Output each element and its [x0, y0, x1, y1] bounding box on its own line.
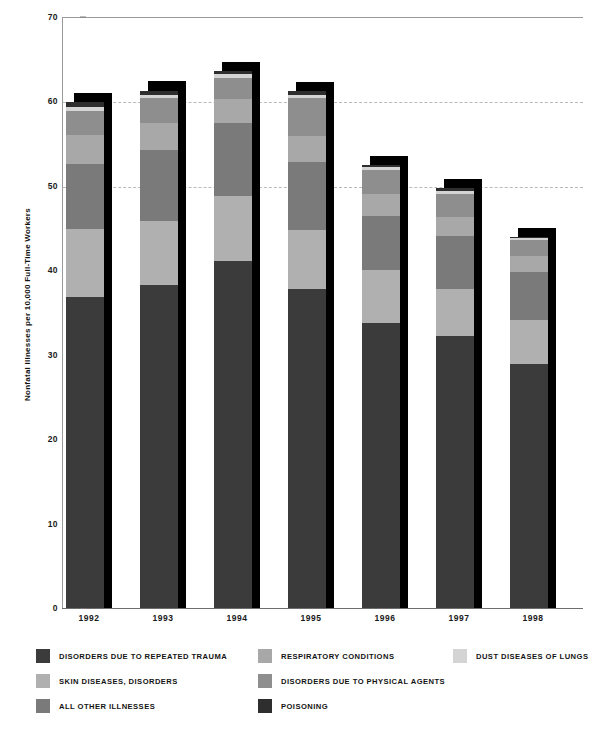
- bar-segment[interactable]: [436, 217, 474, 236]
- bar-segment[interactable]: [362, 194, 400, 216]
- bar-group[interactable]: [288, 0, 334, 608]
- y-axis-tick-label: 40: [28, 265, 58, 275]
- legend-item[interactable]: DISORDERS DUE TO PHYSICAL AGENTS: [258, 673, 445, 689]
- chart-legend: DISORDERS DUE TO REPEATED TRAUMARESPIRAT…: [36, 648, 581, 723]
- bar-segment[interactable]: [288, 289, 326, 608]
- bar-stack[interactable]: [510, 237, 548, 608]
- y-axis-tick-label: 20: [28, 434, 58, 444]
- legend-swatch: [36, 649, 50, 663]
- bar-segment[interactable]: [436, 336, 474, 608]
- bar-segment[interactable]: [510, 256, 548, 272]
- bar-segment[interactable]: [288, 98, 326, 136]
- x-axis-tick-label: 1992: [59, 613, 119, 623]
- legend-item[interactable]: SKIN DISEASES, DISORDERS: [36, 673, 178, 689]
- x-axis-line: [62, 608, 583, 609]
- x-axis-tick-label: 1995: [281, 613, 341, 623]
- bar-group[interactable]: [66, 0, 112, 608]
- bar-segment[interactable]: [510, 320, 548, 364]
- bar-stack[interactable]: [214, 71, 252, 608]
- legend-label: RESPIRATORY CONDITIONS: [281, 652, 394, 661]
- bar-segment[interactable]: [140, 98, 178, 122]
- bar-segment[interactable]: [436, 236, 474, 289]
- legend-swatch: [36, 674, 50, 688]
- legend-swatch: [258, 649, 272, 663]
- y-axis-tick-label: 30: [28, 350, 58, 360]
- bar-segment[interactable]: [66, 297, 104, 608]
- legend-row: ALL OTHER ILLNESSESPOISONING: [36, 698, 581, 723]
- bar-segment[interactable]: [214, 78, 252, 99]
- bar-segment[interactable]: [140, 150, 178, 221]
- bar-stack[interactable]: [436, 188, 474, 608]
- bar-segment[interactable]: [288, 162, 326, 230]
- bar-segment[interactable]: [362, 170, 400, 194]
- bar-group[interactable]: [510, 0, 556, 608]
- legend-label: POISONING: [281, 702, 328, 711]
- x-axis-tick-label: 1994: [207, 613, 267, 623]
- bar-stack[interactable]: [362, 165, 400, 608]
- bar-segment[interactable]: [214, 123, 252, 196]
- bar-segment[interactable]: [362, 216, 400, 270]
- y-axis-tick-label: 70: [28, 12, 58, 22]
- legend-row: SKIN DISEASES, DISORDERSDISORDERS DUE TO…: [36, 673, 581, 698]
- legend-label: ALL OTHER ILLNESSES: [59, 702, 155, 711]
- legend-item[interactable]: ALL OTHER ILLNESSES: [36, 698, 155, 714]
- x-axis-tick-label: 1998: [503, 613, 563, 623]
- legend-item[interactable]: RESPIRATORY CONDITIONS: [258, 648, 394, 664]
- bar-segment[interactable]: [436, 194, 474, 218]
- bar-stack[interactable]: [66, 102, 104, 608]
- bar-stack[interactable]: [288, 91, 326, 608]
- bar-group[interactable]: [214, 0, 260, 608]
- bar-segment[interactable]: [436, 289, 474, 336]
- bar-segment[interactable]: [288, 230, 326, 289]
- legend-label: DISORDERS DUE TO PHYSICAL AGENTS: [281, 677, 445, 686]
- legend-swatch: [258, 699, 272, 713]
- bar-segment[interactable]: [66, 229, 104, 297]
- bar-segment[interactable]: [510, 240, 548, 256]
- legend-label: DISORDERS DUE TO REPEATED TRAUMA: [59, 652, 227, 661]
- bar-segment[interactable]: [66, 135, 104, 164]
- legend-item[interactable]: DISORDERS DUE TO REPEATED TRAUMA: [36, 648, 227, 664]
- y-axis-tick-label: 10: [28, 519, 58, 529]
- bar-segment[interactable]: [140, 285, 178, 608]
- bar-segment[interactable]: [140, 123, 178, 151]
- x-axis-tick-label: 1997: [429, 613, 489, 623]
- x-axis-tick-label: 1993: [133, 613, 193, 623]
- bar-segment[interactable]: [510, 272, 548, 320]
- y-axis-title: Nonfatal Illnesses per 10,000 Full-Time …: [23, 190, 32, 420]
- bar-stack[interactable]: [140, 90, 178, 608]
- y-axis-tick-label: 0: [28, 603, 58, 613]
- legend-label: SKIN DISEASES, DISORDERS: [59, 677, 178, 686]
- bar-segment[interactable]: [510, 364, 548, 608]
- bar-group[interactable]: [362, 0, 408, 608]
- legend-swatch: [453, 649, 467, 663]
- legend-item[interactable]: DUST DISEASES OF LUNGS: [453, 648, 588, 664]
- legend-swatch: [258, 674, 272, 688]
- chart-page: 010203040506070 Nonfatal Illnesses per 1…: [0, 0, 599, 730]
- bar-group[interactable]: [436, 0, 482, 608]
- bar-segment[interactable]: [214, 261, 252, 608]
- legend-swatch: [36, 699, 50, 713]
- bar-segment[interactable]: [362, 323, 400, 608]
- bar-segment[interactable]: [66, 164, 104, 229]
- bar-segment[interactable]: [288, 136, 326, 162]
- bar-group[interactable]: [140, 0, 186, 608]
- bar-segment[interactable]: [214, 99, 252, 123]
- bar-segment[interactable]: [140, 221, 178, 284]
- legend-item[interactable]: POISONING: [258, 698, 328, 714]
- bar-segment[interactable]: [214, 196, 252, 261]
- bar-segment[interactable]: [66, 111, 104, 135]
- bar-segment[interactable]: [362, 270, 400, 323]
- x-axis-tick-label: 1996: [355, 613, 415, 623]
- legend-label: DUST DISEASES OF LUNGS: [476, 652, 588, 661]
- y-axis-tick-label: 60: [28, 96, 58, 106]
- legend-row: DISORDERS DUE TO REPEATED TRAUMARESPIRAT…: [36, 648, 581, 673]
- y-axis-tick-label: 50: [28, 181, 58, 191]
